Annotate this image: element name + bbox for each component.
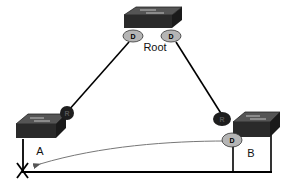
port-label: R: [64, 110, 69, 117]
bpdu-arrow: [40, 141, 226, 164]
root-label: Root: [143, 41, 166, 53]
switch-icon: [233, 112, 280, 137]
link-root-to-b: [176, 42, 222, 115]
link-root-to-a: [68, 42, 129, 111]
port-label: D: [229, 137, 234, 144]
stp-topology-diagram: D D Root R A R D B: [0, 0, 291, 186]
port-label: R: [219, 116, 224, 123]
switch-icon: [16, 114, 66, 138]
root-switch[interactable]: D D Root: [123, 7, 182, 53]
switch-a[interactable]: R A: [16, 106, 74, 157]
switch-icon: [124, 7, 182, 28]
port-label: D: [168, 33, 173, 40]
switch-b[interactable]: R D B: [213, 112, 280, 159]
switch-b-label: B: [247, 147, 254, 159]
switch-a-label: A: [36, 145, 44, 157]
port-label: D: [130, 33, 135, 40]
